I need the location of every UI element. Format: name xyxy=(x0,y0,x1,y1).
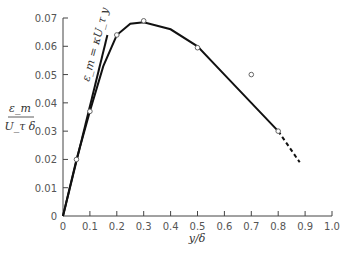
y-tick-label: 0.06 xyxy=(35,41,57,52)
data-point-marker xyxy=(276,129,281,134)
x-tick-label: 0.8 xyxy=(270,221,286,232)
data-point-marker xyxy=(249,72,254,77)
y-axis-label-numerator: ε_m xyxy=(9,102,31,115)
chart: 00.010.020.030.040.050.060.07 00.10.20.3… xyxy=(0,0,347,255)
y-tick-label: 0.04 xyxy=(35,98,57,109)
x-axis-ticks: 00.10.20.30.40.50.60.70.80.91.0 xyxy=(60,211,340,232)
y-tick-label: 0.01 xyxy=(35,183,57,194)
x-tick-label: 0.2 xyxy=(109,221,125,232)
x-tick-label: 0.3 xyxy=(136,221,152,232)
y-tick-label: 0.05 xyxy=(35,70,57,81)
x-tick-label: 0.7 xyxy=(243,221,259,232)
y-axis-label-denominator: U_τ δ xyxy=(5,120,36,133)
data-point-marker xyxy=(141,19,146,24)
data-point-marker xyxy=(74,157,79,162)
x-tick-label: 0.1 xyxy=(82,221,98,232)
line-annotation: ε_m = κU_τ y xyxy=(79,5,111,82)
y-tick-label: 0.03 xyxy=(35,126,57,137)
x-tick-label: 0.4 xyxy=(163,221,179,232)
y-tick-label: 0.02 xyxy=(35,154,57,165)
x-axis-label: y/δ xyxy=(188,232,206,245)
series-line xyxy=(278,131,300,162)
y-tick-label: 0.07 xyxy=(35,13,57,24)
x-tick-label: 0.9 xyxy=(297,221,313,232)
x-tick-label: 1.0 xyxy=(324,221,340,232)
y-tick-label: 0 xyxy=(51,211,57,222)
data-point-marker xyxy=(88,109,93,114)
data-point-marker xyxy=(195,45,200,50)
x-tick-label: 0 xyxy=(60,221,66,232)
data-points xyxy=(74,19,280,162)
x-tick-label: 0.5 xyxy=(190,221,206,232)
x-tick-label: 0.6 xyxy=(216,221,232,232)
data-point-marker xyxy=(115,33,120,38)
